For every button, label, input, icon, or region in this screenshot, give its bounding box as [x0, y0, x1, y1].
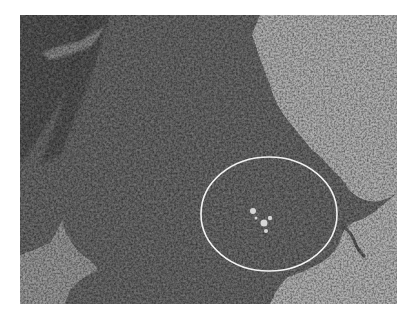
micrograph — [20, 15, 397, 304]
micrograph-frame — [20, 15, 397, 304]
